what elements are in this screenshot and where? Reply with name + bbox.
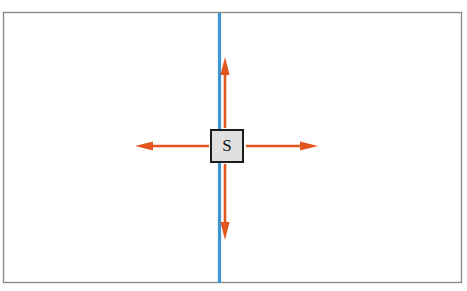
figure-canvas: S xyxy=(0,0,467,291)
source-box-label: S xyxy=(222,136,231,155)
point-source-diagram: S xyxy=(0,0,467,291)
